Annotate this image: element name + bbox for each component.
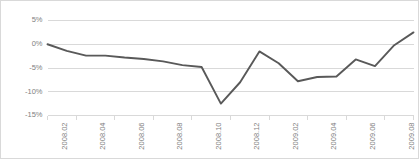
line-chart: 5%0%-5%-10%-15% 2008.022008.042008.06200… — [1, 1, 420, 160]
x-axis-tick-labels: 2008.022008.042008.062008.082008.102008.… — [60, 123, 416, 150]
y-axis-tick-label: 0% — [32, 39, 43, 48]
y-axis-tick-label: 5% — [32, 15, 43, 24]
x-axis-tick-label: 2008.04 — [98, 123, 107, 150]
x-axis-tick-label: 2009.04 — [329, 123, 338, 150]
x-axis-tick-label: 2009.08 — [407, 123, 416, 150]
gridlines — [48, 21, 414, 116]
y-axis-tick-label: -5% — [29, 63, 43, 72]
chart-container: 5%0%-5%-10%-15% 2008.022008.042008.06200… — [0, 0, 419, 159]
x-axis-tick-label: 2008.12 — [252, 123, 261, 150]
x-axis-tick-label: 2008.06 — [137, 123, 146, 150]
x-axis-tick-label: 2008.10 — [214, 123, 223, 150]
x-axis-tick-label: 2008.08 — [175, 123, 184, 150]
y-axis-tick-label: -10% — [25, 87, 43, 96]
x-axis-tickmarks — [48, 116, 414, 120]
y-axis-tick-labels: 5%0%-5%-10%-15% — [25, 15, 43, 119]
x-axis-tick-label: 2008.02 — [60, 123, 69, 150]
x-axis-tick-label: 2009.02 — [291, 123, 300, 150]
y-axis-tick-label: -15% — [25, 110, 43, 119]
x-axis-tick-label: 2009.06 — [368, 123, 377, 150]
